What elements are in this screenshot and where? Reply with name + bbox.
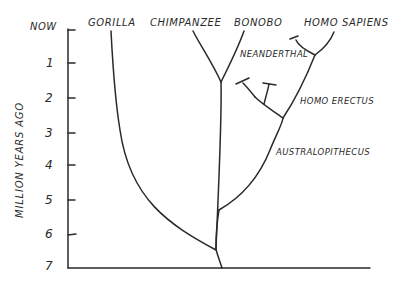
axis-tick-label-4: 4 <box>45 159 53 171</box>
neanderthal-cap <box>290 36 298 39</box>
homo-sapiens-branch <box>315 32 334 55</box>
axis-tick-label-2: 2 <box>45 92 53 104</box>
axis-tick-label-1: 1 <box>46 57 54 69</box>
label-bonobo: BONOBO <box>234 18 282 28</box>
evolution-tree-diagram: NOW 1 2 3 4 5 6 7 MILLION YEARS AGO GORI… <box>0 0 394 283</box>
homo-erectus-twig-b-cap <box>263 83 276 85</box>
chimp-bonobo-trunk <box>216 82 221 248</box>
homo-erectus-twig-b <box>264 84 269 104</box>
axis-tick-label-3: 3 <box>45 127 53 139</box>
label-homo-erectus: HOMO ERECTUS <box>300 97 374 106</box>
y-axis-title: MILLION YEARS AGO <box>15 102 25 218</box>
label-neanderthal: NEANDERTHAL <box>240 50 308 59</box>
label-homo-sapiens: HOMO SAPIENS <box>304 18 389 28</box>
sapiens-lineage <box>283 55 315 118</box>
tree-lines <box>0 0 394 283</box>
axis-tick-label-6: 6 <box>45 228 53 240</box>
gorilla-branch <box>111 31 216 250</box>
homo-erectus-twig-a <box>243 83 255 97</box>
label-australopithecus: AUSTRALOPITHECUS <box>276 148 370 157</box>
root-trunk <box>216 248 222 268</box>
axis-tick-label-now: NOW <box>30 22 57 32</box>
label-chimpanzee: CHIMPANZEE <box>150 18 221 28</box>
homo-erectus-stem <box>255 97 283 118</box>
label-gorilla: GORILLA <box>88 18 136 28</box>
axis-tick-label-7: 7 <box>45 260 53 272</box>
chimpanzee-branch <box>193 31 221 82</box>
australopithecus-branch <box>219 118 283 210</box>
tick-6 <box>68 234 76 235</box>
axis-tick-label-5: 5 <box>45 194 53 206</box>
